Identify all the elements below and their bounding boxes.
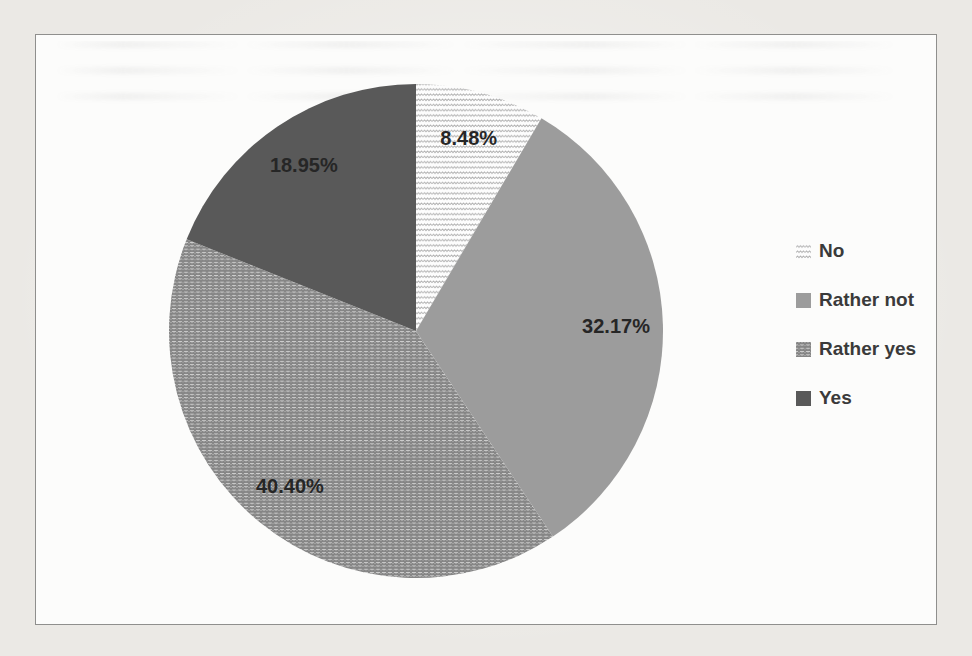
data-label-rather-not: 32.17% (582, 315, 650, 337)
legend-swatch-rather-yes (796, 342, 811, 357)
data-label-no: 8.48% (440, 127, 497, 149)
legend-label-rather-yes: Rather yes (819, 339, 916, 359)
legend-swatch-no (796, 244, 811, 259)
chart-frame: 8.48%32.17%40.40%18.95% No Rather not Ra… (35, 34, 937, 625)
data-label-yes: 18.95% (270, 154, 338, 176)
legend-item-yes: Yes (796, 388, 916, 408)
scanned-page-background: 8.48%32.17%40.40%18.95% No Rather not Ra… (0, 0, 972, 656)
legend-label-no: No (819, 241, 844, 261)
legend-label-yes: Yes (819, 388, 852, 408)
legend-item-rather-yes: Rather yes (796, 339, 916, 359)
legend-swatch-yes (796, 391, 811, 406)
chart-legend: No Rather not Rather yes Yes (796, 241, 916, 408)
legend-item-no: No (796, 241, 916, 261)
legend-swatch-rather-not (796, 293, 811, 308)
legend-item-rather-not: Rather not (796, 290, 916, 310)
legend-label-rather-not: Rather not (819, 290, 914, 310)
data-label-rather-yes: 40.40% (256, 475, 324, 497)
